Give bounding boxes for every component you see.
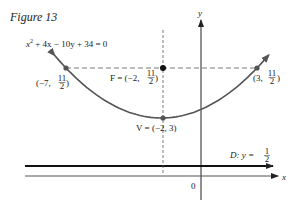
svg-text:F = (−2,: F = (−2, [110, 73, 139, 83]
svg-text:): ) [155, 73, 158, 83]
figure-title: Figure 13 [9, 10, 57, 24]
vertex-label: V = (−2, 3) [136, 123, 176, 133]
directrix-fraction: 1 2 [264, 146, 270, 164]
svg-text:2: 2 [149, 76, 154, 86]
equation-label: x2 + 4x − 10y + 34 = 0 [25, 38, 108, 49]
svg-text:(−7,: (−7, [36, 78, 51, 88]
svg-text:(3,: (3, [253, 73, 263, 83]
y-axis-label: y [197, 8, 202, 18]
right-endpoint-label: (3, 11 2 ) [253, 68, 280, 86]
origin-label: 0 [191, 181, 196, 191]
focus-point [160, 65, 166, 71]
x-axis-label: x [281, 172, 286, 182]
svg-text:2: 2 [270, 76, 275, 86]
parabola-figure: Figure 13 x2 + 4x − 10y + 34 = 0 y x 0 D… [0, 0, 302, 211]
svg-text:2: 2 [265, 154, 270, 164]
vertex-point [160, 115, 165, 120]
left-endpoint-label: (−7, 11 2 ) [36, 73, 69, 91]
point-left-endpoint [63, 65, 68, 70]
focus-label: F = (−2, 11 2 ) [110, 68, 158, 86]
svg-text:2: 2 [60, 81, 65, 91]
parabola-curve [55, 55, 269, 118]
directrix-label: D: y = [229, 150, 254, 160]
svg-text:): ) [66, 78, 69, 88]
svg-text:): ) [277, 73, 280, 83]
point-right-endpoint [254, 65, 259, 70]
